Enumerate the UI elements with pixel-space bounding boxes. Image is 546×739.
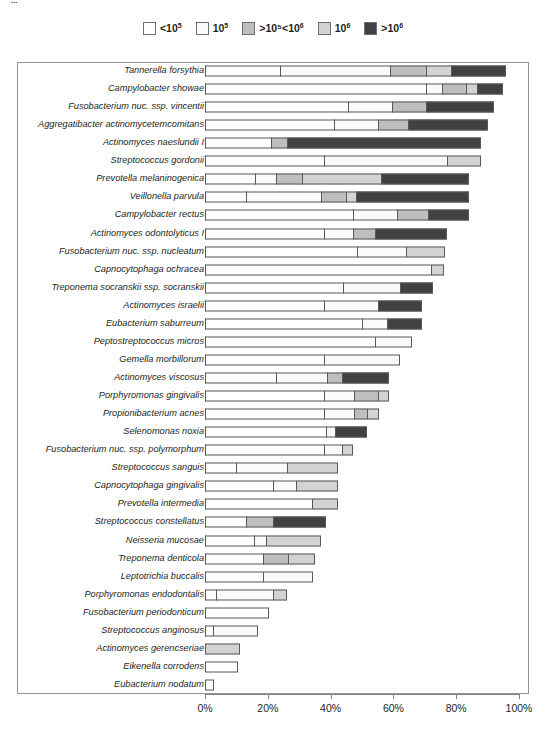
chart-row: Prevotella melaninogenica — [17, 170, 529, 188]
row-label: Gemella morbillorum — [119, 355, 204, 364]
bar-segment — [205, 499, 312, 510]
bar-segment — [375, 228, 447, 239]
chart-row: Actinomyces naeslundii I — [17, 134, 529, 152]
bar-segment — [205, 607, 269, 618]
bar-segment — [205, 300, 324, 311]
bar-segment — [324, 391, 354, 402]
bar-segment — [390, 66, 426, 77]
bar-segment — [392, 102, 427, 113]
legend-label: <105 — [160, 23, 182, 34]
bar-segment — [353, 228, 375, 239]
bar-segment — [205, 372, 276, 383]
bar-segment — [324, 354, 399, 365]
bar-segment — [246, 517, 273, 528]
stacked-bar — [205, 228, 447, 239]
bar-segment — [287, 138, 482, 149]
row-label: Propionibacterium acnes — [103, 409, 204, 418]
legend-label: >10⁵<106 — [259, 23, 303, 34]
bar-segment — [205, 354, 324, 365]
bar-segment — [378, 391, 389, 402]
bar-segment — [205, 210, 353, 221]
bar-segment — [205, 192, 246, 203]
row-label: Veillonella parvula — [130, 193, 204, 202]
stacked-bar — [205, 246, 445, 257]
bar-segment — [205, 318, 362, 329]
bar-segment — [263, 553, 288, 564]
bar-segment — [205, 102, 348, 113]
stacked-bar — [205, 336, 412, 347]
bar-segment — [327, 372, 341, 383]
stacked-bar — [205, 354, 400, 365]
bar-segment — [205, 445, 324, 456]
bar-segment — [406, 246, 445, 257]
chart-row: Tannerella forsythia — [17, 62, 529, 80]
row-label: Leptotrichia buccalis — [121, 572, 204, 581]
chart-legend: <105105>10⁵<106106>106 — [0, 22, 546, 35]
row-label: Streptococcus sanguis — [112, 464, 204, 473]
bar-segment — [276, 174, 303, 185]
bar-segment — [205, 517, 246, 528]
chart-row: Actinomyces israelii — [17, 297, 529, 315]
bar-segment — [428, 210, 469, 221]
chart-row: Gemella morbillorum — [17, 351, 529, 369]
chart-row: Selenomonas noxia — [17, 423, 529, 441]
bar-segment — [334, 120, 378, 131]
bar-segment — [324, 409, 354, 420]
row-label: Capnocytophaga gingivalis — [94, 482, 204, 491]
axis-tick — [456, 694, 457, 699]
legend-swatch — [242, 22, 255, 35]
bar-segment — [442, 84, 466, 95]
bar-segment — [205, 156, 324, 167]
bar-segment — [205, 246, 357, 257]
legend-swatch — [364, 22, 377, 35]
axis-tick — [393, 694, 394, 699]
bar-segment — [378, 300, 422, 311]
bar-segment — [354, 391, 378, 402]
row-label: Actinomyces naeslundii I — [103, 139, 204, 148]
chart-row: Eikenella corrodens — [17, 658, 529, 676]
bar-segment — [205, 571, 263, 582]
row-label: Actinomyces gerencseriae — [96, 644, 204, 653]
stacked-bar — [205, 607, 269, 618]
stacked-bar — [205, 102, 494, 113]
stacked-bar — [205, 372, 389, 383]
chart-row: Streptococcus constellatus — [17, 513, 529, 531]
row-label: Eubacterium saburreum — [106, 319, 204, 328]
chart-figure: ... <105105>10⁵<106106>106 Tannerella fo… — [0, 0, 546, 739]
bar-segment — [348, 102, 392, 113]
bar-segment — [205, 264, 431, 275]
bar-segment — [216, 589, 273, 600]
stacked-bar — [205, 84, 503, 95]
bar-segment — [276, 372, 328, 383]
chart-row: Eubacterium nodatum — [17, 676, 529, 694]
bar-segment — [255, 174, 275, 185]
stacked-bar — [205, 174, 469, 185]
row-label: Actinomyces odontolyticus I — [91, 229, 204, 238]
row-label: Aggregatibacter actinomycetemcomitans — [38, 121, 204, 130]
stacked-bar — [205, 300, 422, 311]
bar-segment — [353, 210, 397, 221]
stacked-bar — [205, 571, 313, 582]
bar-segment — [213, 625, 259, 636]
row-label: Treponema socranskii ssp. socranskii — [52, 283, 205, 292]
top-caption: ... — [11, 0, 18, 4]
bar-segment — [400, 282, 433, 293]
stacked-bar — [205, 282, 433, 293]
bar-segment — [326, 427, 335, 438]
bar-segment — [378, 120, 408, 131]
stacked-bar — [205, 318, 422, 329]
axis-tick-label: 20% — [257, 702, 278, 714]
bar-segment — [324, 228, 352, 239]
row-label: Fusobacterium periodonticum — [83, 608, 204, 617]
row-label: Actinomyces israelii — [123, 301, 204, 310]
bar-segment — [321, 192, 346, 203]
legend-label: >106 — [381, 23, 403, 34]
stacked-bar — [205, 391, 389, 402]
axis-tick-label: 0% — [197, 702, 212, 714]
chart-row: Streptococcus sanguis — [17, 459, 529, 477]
row-label: Actinomyces viscosus — [114, 373, 204, 382]
bar-segment — [266, 535, 321, 546]
stacked-bar — [205, 589, 287, 600]
chart-row: Campylobacter showae — [17, 80, 529, 98]
chart-row: Prevotella intermedia — [17, 495, 529, 513]
